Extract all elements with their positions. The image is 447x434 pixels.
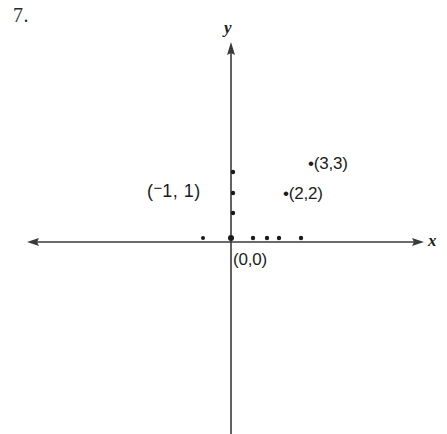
dot-origin (228, 235, 234, 241)
point-label-neg1-1: (−1, 1) (147, 180, 201, 202)
dot-row-left (201, 236, 205, 240)
point-label-2-2: •(2,2) (283, 184, 323, 204)
dot-col-third (231, 211, 235, 215)
dot-row-3 (277, 236, 281, 240)
dot-row-1 (251, 236, 255, 240)
dot-row-2 (265, 236, 269, 240)
minus-sign: − (154, 180, 163, 196)
x-axis-label: x (428, 231, 437, 251)
y-axis-label: y (224, 18, 232, 38)
coordinate-plane (0, 0, 447, 434)
point-label-origin: (0,0) (233, 250, 267, 270)
plotted-points (201, 170, 303, 241)
dot-row-4 (299, 236, 303, 240)
worksheet-page: 7. (0, 0, 447, 434)
dot-col-top (231, 170, 235, 174)
dot-col-second (231, 191, 235, 195)
neg1-1-rest: 1, 1) (162, 181, 201, 201)
point-label-3-3: •(3,3) (308, 154, 348, 174)
coordinate-plane-svg (0, 0, 447, 434)
